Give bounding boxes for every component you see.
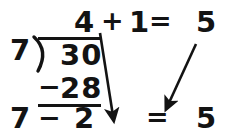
- top-equation-result: 5: [196, 8, 216, 37]
- long-division-figure: 7 4 30 − 28 + 1 = 5 7 − 2 = 5: [0, 0, 229, 140]
- bottom-equation-equals-sign: =: [146, 103, 169, 130]
- subtrahend: 28: [60, 74, 102, 103]
- bottom-equation-result: 5: [196, 104, 216, 133]
- bottom-result-to-divisor-arrow: [168, 44, 196, 105]
- bottom-equation-left-operand: 7: [10, 104, 30, 133]
- bottom-equation-operator: −: [38, 104, 61, 131]
- divisor: 7: [10, 36, 30, 65]
- bottom-equation-right-operand: 2: [74, 104, 94, 133]
- subtraction-minus-sign: −: [38, 73, 61, 100]
- dividend: 30: [60, 41, 102, 70]
- top-equation-equals-sign: =: [149, 7, 172, 34]
- quotient: 4: [74, 8, 94, 37]
- top-equation-right-operand: 1: [129, 8, 149, 37]
- top-equation-operator: +: [101, 7, 124, 34]
